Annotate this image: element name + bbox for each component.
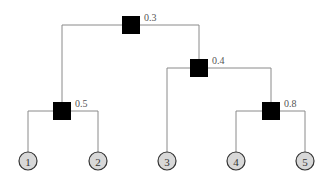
leaf-label: 4 (233, 156, 239, 168)
inner-node: 0.5 (53, 98, 88, 120)
leaf-node: 1 (19, 152, 37, 170)
tree-edge (62, 25, 131, 102)
inner-node: 0.4 (190, 55, 225, 77)
leaf-node: 2 (89, 152, 107, 170)
leaf-label: 3 (164, 156, 170, 168)
inner-node: 0.3 (122, 12, 157, 34)
square-node-icon (53, 102, 71, 120)
edges-layer (28, 25, 305, 152)
square-node-icon (262, 102, 280, 120)
tree-edge (199, 68, 271, 102)
leaves-layer: 12345 (19, 152, 314, 170)
node-weight-label: 0.4 (212, 55, 225, 66)
node-weight-label: 0.5 (75, 98, 88, 109)
leaf-node: 5 (296, 152, 314, 170)
leaf-node: 4 (227, 152, 245, 170)
leaf-label: 5 (302, 156, 308, 168)
tree-edge (131, 25, 199, 59)
node-weight-label: 0.8 (284, 98, 297, 109)
node-weight-label: 0.3 (144, 12, 157, 23)
leaf-label: 2 (95, 156, 101, 168)
tree-diagram: 0.30.40.50.8 12345 (0, 0, 330, 185)
tree-diagram-canvas: 0.30.40.50.8 12345 (0, 0, 330, 185)
leaf-label: 1 (25, 156, 31, 168)
square-node-icon (122, 16, 140, 34)
inner-node: 0.8 (262, 98, 297, 120)
tree-edge (167, 68, 199, 152)
leaf-node: 3 (158, 152, 176, 170)
inner-nodes-layer: 0.30.40.50.8 (53, 12, 297, 120)
square-node-icon (190, 59, 208, 77)
